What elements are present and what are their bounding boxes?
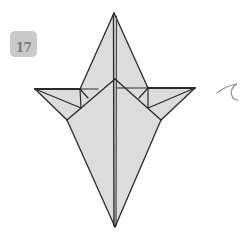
turn-over-arrow-icon [217, 84, 238, 100]
origami-diagram [0, 0, 242, 240]
lower-body [35, 88, 195, 227]
paper-body [35, 13, 195, 227]
